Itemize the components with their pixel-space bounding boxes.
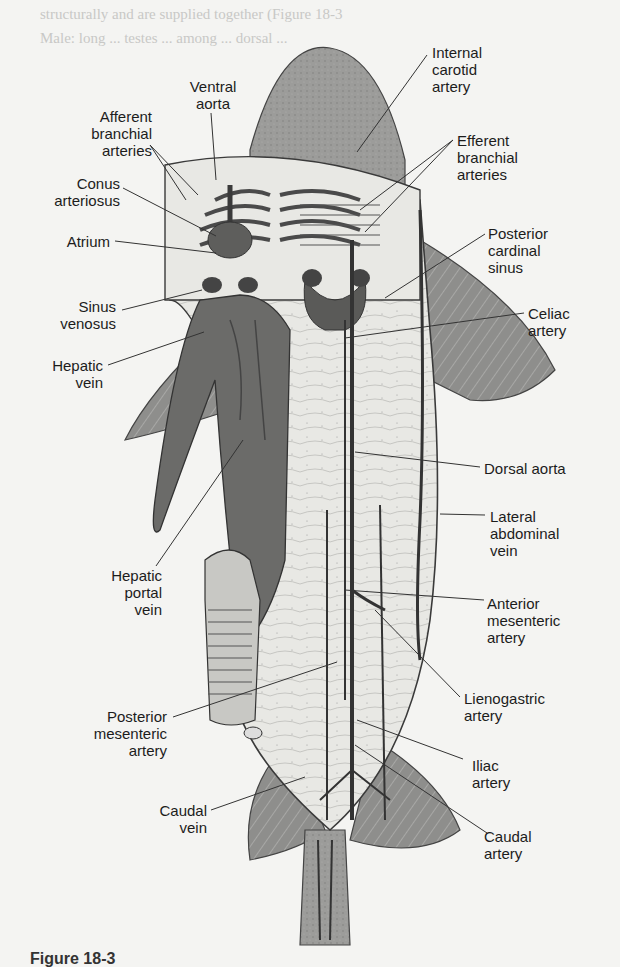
- label-dorsal-aorta: Dorsal aorta: [484, 460, 614, 477]
- label-posterior-cardinal-sinus: Posterior cardinal sinus: [488, 225, 608, 276]
- label-hepatic-vein: Hepatic vein: [20, 357, 103, 391]
- label-lienogastric-artery: Lienogastric artery: [464, 690, 604, 724]
- label-posterior-mesenteric-artery: Posterior mesenteric artery: [40, 708, 167, 759]
- label-caudal-artery: Caudal artery: [484, 828, 584, 862]
- tail: [300, 830, 350, 945]
- label-sinus-venosus: Sinus venosus: [20, 298, 116, 332]
- label-hepatic-portal-vein: Hepatic portal vein: [40, 567, 162, 618]
- label-anterior-mesenteric-artery: Anterior mesenteric artery: [487, 595, 607, 646]
- gill-region: [165, 157, 420, 300]
- label-celiac-artery: Celiac artery: [528, 305, 618, 339]
- label-lateral-abdominal-vein: Lateral abdominal vein: [490, 508, 610, 559]
- label-atrium: Atrium: [20, 233, 110, 250]
- intestine: [205, 550, 262, 739]
- label-iliac-artery: Iliac artery: [472, 757, 572, 791]
- label-ventral-aorta: Ventral aorta: [168, 78, 258, 112]
- label-afferent-branchial-arteries: Afferent branchial arteries: [60, 108, 152, 159]
- figure-caption: Figure 18-3: [30, 950, 115, 967]
- label-efferent-branchial-arteries: Efferent branchial arteries: [457, 132, 577, 183]
- label-conus-arteriosus: Conus arteriosus: [20, 175, 120, 209]
- label-internal-carotid-artery: Internal carotid artery: [432, 44, 552, 95]
- label-caudal-vein: Caudal vein: [100, 802, 207, 836]
